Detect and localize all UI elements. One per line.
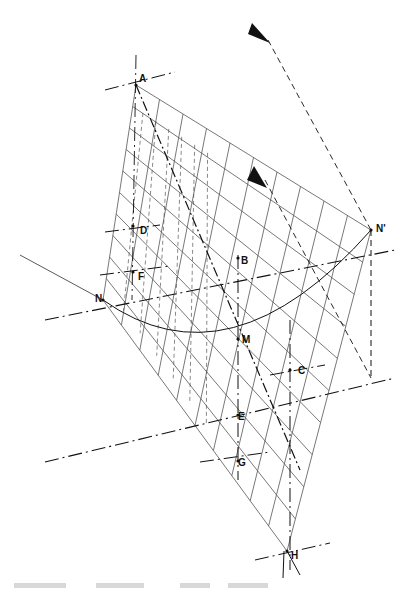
projection-line <box>20 255 103 300</box>
label-m: M <box>242 334 250 345</box>
vertical-line-a <box>132 55 136 300</box>
view-direction-arrow-lower <box>247 166 267 188</box>
axis-tick-f <box>100 266 170 275</box>
label-c: C <box>298 365 305 376</box>
label-b: B <box>241 255 248 266</box>
label-d: D <box>140 225 147 236</box>
construction-lines <box>20 40 395 578</box>
label-e: E <box>238 411 245 422</box>
label-n: N <box>95 293 102 304</box>
point-marker <box>131 224 134 227</box>
caption-smudge <box>96 583 144 588</box>
point-marker <box>285 549 288 552</box>
view-line-upper <box>268 40 371 230</box>
label-h: H <box>291 550 298 561</box>
view-arrows <box>101 23 372 553</box>
hidden-ruling <box>157 129 169 356</box>
horizontal-axis-lower <box>45 378 395 462</box>
point-marker <box>236 256 239 259</box>
surface-ruling <box>129 128 354 294</box>
caption-smudge <box>14 583 66 588</box>
point-marker <box>369 228 372 231</box>
point-marker <box>236 337 239 340</box>
hidden-ruling <box>206 153 207 424</box>
point-marker <box>131 270 134 273</box>
surface-grid <box>103 85 371 551</box>
hidden-ruling <box>173 137 181 378</box>
label-f: F <box>138 271 144 282</box>
caption-smudge <box>228 583 268 588</box>
label-a: A <box>139 73 146 84</box>
caption-smudge <box>180 583 210 588</box>
surface-ruling <box>136 85 371 230</box>
technical-drawing: A N' D B F N M C E G H <box>0 0 419 592</box>
point-marker <box>288 368 291 371</box>
hidden-ruling <box>190 145 195 401</box>
point-marker <box>134 83 137 86</box>
view-direction-arrow-upper <box>248 23 270 43</box>
h-stub-vertical <box>283 551 284 578</box>
surface-ruling <box>116 214 320 423</box>
label-n-prime: N' <box>376 223 386 234</box>
label-g: G <box>238 457 246 468</box>
view-line-lower <box>265 180 371 378</box>
surface-ruling <box>133 107 363 263</box>
